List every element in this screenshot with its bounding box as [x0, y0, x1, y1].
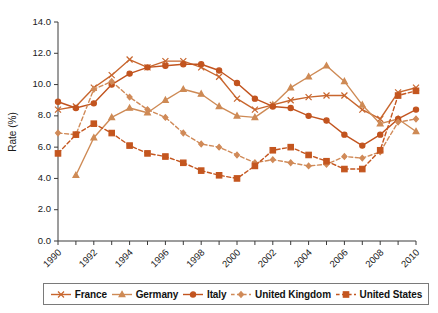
x-marker — [50, 289, 72, 300]
data-point-marker — [270, 104, 275, 109]
y-tick-label: 8.0 — [38, 109, 51, 120]
y-tick-label: 4.0 — [38, 172, 51, 183]
x-tick-label: 1996 — [148, 247, 171, 270]
data-point-marker — [199, 62, 204, 67]
data-point-marker — [360, 155, 365, 161]
data-point-marker — [306, 74, 312, 79]
data-series-group — [55, 57, 419, 182]
triangle-marker — [111, 289, 133, 300]
data-point-marker — [127, 71, 132, 76]
data-point-marker — [234, 96, 240, 102]
legend-item-united-states[interactable]: United States — [335, 289, 423, 300]
data-point-marker — [360, 166, 365, 171]
data-point-marker — [145, 65, 150, 70]
data-point-marker — [55, 151, 60, 156]
legend-item-germany[interactable]: Germany — [111, 289, 179, 300]
x-tick-label: 2000 — [220, 247, 243, 270]
legend-label: United Kingdom — [255, 289, 331, 300]
data-point-marker — [163, 97, 169, 102]
legend-label: France — [75, 289, 107, 300]
data-point-marker — [180, 86, 186, 91]
legend-label: Germany — [136, 289, 179, 300]
y-tick-label: 6.0 — [38, 141, 51, 152]
legend-item-united-kingdom[interactable]: United Kingdom — [230, 289, 331, 300]
data-point-marker — [306, 113, 311, 118]
data-point-marker — [414, 116, 419, 122]
data-point-marker — [217, 144, 222, 150]
x-axis: 1990199219941996199820002002200420062008… — [41, 241, 422, 269]
x-tick-label: 2010 — [399, 247, 422, 270]
data-point-marker — [360, 143, 365, 148]
data-point-marker — [239, 291, 244, 297]
y-tick-label: 14.0 — [33, 16, 52, 27]
y-tick-label: 10.0 — [33, 78, 52, 89]
x-tick-label: 1994 — [112, 247, 135, 270]
data-point-marker — [270, 148, 275, 153]
y-tick-label: 0.0 — [38, 235, 51, 246]
data-point-marker — [199, 168, 204, 173]
data-point-marker — [109, 114, 115, 119]
data-point-marker — [217, 68, 222, 73]
data-point-marker — [199, 141, 204, 147]
data-point-marker — [378, 148, 383, 153]
data-point-marker — [127, 57, 133, 63]
data-point-marker — [413, 107, 418, 112]
data-point-marker — [324, 118, 329, 123]
data-point-marker — [91, 101, 96, 106]
data-point-marker — [234, 80, 239, 85]
data-point-marker — [181, 62, 186, 67]
line-chart-plot: 0.02.04.06.08.010.012.014.0 199019921994… — [0, 0, 438, 283]
data-point-marker — [395, 93, 400, 98]
data-point-marker — [109, 130, 114, 135]
data-point-marker — [342, 166, 347, 171]
y-axis-title: Rate (%) — [7, 112, 18, 151]
x-tick-label: 1992 — [76, 247, 99, 270]
circle-marker — [182, 289, 204, 300]
data-point-marker — [378, 132, 383, 137]
data-point-marker — [306, 152, 311, 157]
chart-container: 0.02.04.06.08.010.012.014.0 199019921994… — [0, 0, 438, 313]
y-tick-label: 2.0 — [38, 203, 51, 214]
data-point-marker — [288, 160, 293, 166]
legend-item-france[interactable]: France — [50, 289, 107, 300]
data-point-marker — [216, 103, 222, 108]
data-point-marker — [234, 113, 240, 118]
data-point-marker — [73, 132, 78, 137]
x-tick-label: 2004 — [291, 247, 314, 270]
data-point-marker — [252, 114, 258, 119]
series-united-states — [55, 88, 418, 181]
data-point-marker — [342, 154, 347, 160]
diamond-marker — [230, 289, 252, 300]
x-tick-label: 2008 — [363, 247, 386, 270]
x-tick-label: 1990 — [41, 247, 64, 270]
data-point-marker — [343, 291, 348, 296]
data-point-marker — [127, 143, 132, 148]
data-point-marker — [216, 173, 221, 178]
data-point-marker — [216, 74, 222, 80]
data-point-marker — [413, 128, 419, 133]
legend-label: United States — [360, 289, 423, 300]
data-point-marker — [145, 151, 150, 156]
data-point-marker — [234, 176, 239, 181]
legend-label: Italy — [207, 289, 227, 300]
data-point-marker — [163, 63, 168, 68]
data-point-marker — [252, 163, 257, 168]
series-germany — [73, 63, 419, 178]
y-axis: 0.02.04.06.08.010.012.014.0 — [33, 16, 59, 246]
data-point-marker — [73, 105, 78, 110]
chart-legend: FranceGermanyItalyUnited KingdomUnited S… — [43, 283, 429, 305]
data-point-marker — [198, 91, 204, 96]
data-point-marker — [163, 154, 168, 159]
data-point-marker — [55, 99, 60, 104]
x-tick-label: 2002 — [255, 247, 278, 270]
legend-item-italy[interactable]: Italy — [182, 289, 227, 300]
data-point-marker — [288, 105, 293, 110]
data-point-marker — [119, 291, 125, 296]
data-point-marker — [181, 160, 186, 165]
data-point-marker — [288, 144, 293, 149]
data-point-marker — [190, 291, 195, 296]
data-point-marker — [306, 163, 311, 169]
data-point-marker — [127, 105, 133, 110]
data-point-marker — [109, 72, 115, 78]
x-tick-label: 1998 — [184, 247, 207, 270]
